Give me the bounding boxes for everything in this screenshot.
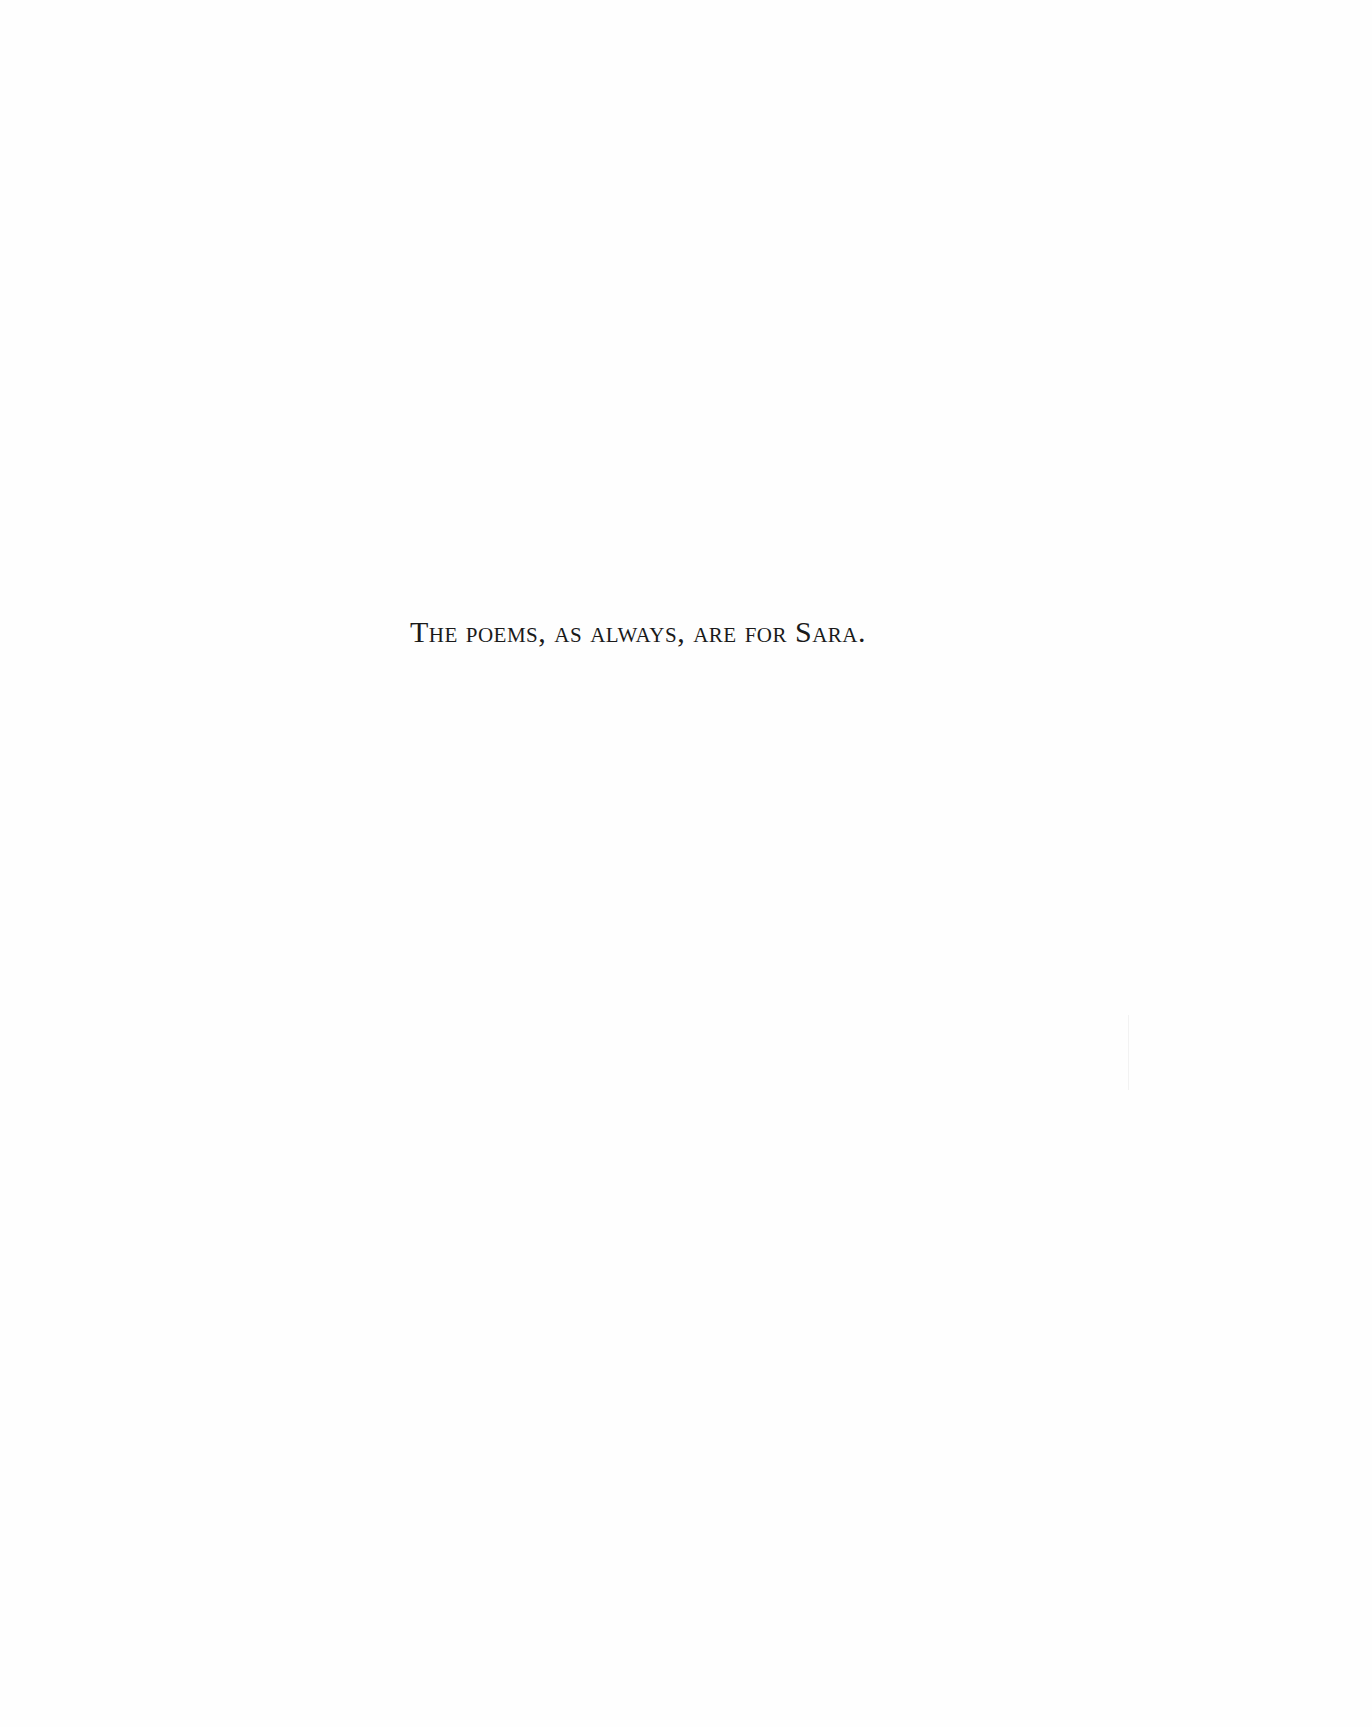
dedication-text: The poems, as always, are for Sara. (0, 612, 1276, 652)
book-page: The poems, as always, are for Sara. (0, 0, 1372, 1727)
scan-artifact (1128, 1015, 1129, 1090)
